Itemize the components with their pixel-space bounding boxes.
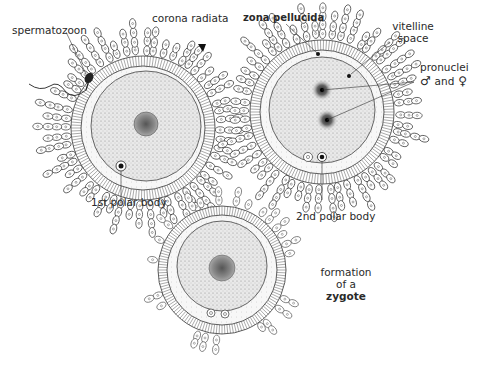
label-vitelline: vitelline xyxy=(388,20,438,32)
male-symbol: ♂ xyxy=(420,74,431,88)
polar-body-chromatin xyxy=(119,164,124,169)
polar-body-1 xyxy=(207,309,215,317)
oocyte-nucleus xyxy=(134,112,158,136)
first-polar-body xyxy=(304,153,313,162)
label-spermatozoon: spermatozoon xyxy=(12,24,87,36)
label-formation-of-zygote: formation of a zygote xyxy=(316,266,376,302)
label-first-polar-body: 1st polar body xyxy=(91,196,167,208)
label-zona-pellucida: zona pellucida xyxy=(243,12,324,24)
label-and: and xyxy=(435,75,455,87)
label-formation: formation xyxy=(316,266,376,278)
label-space: space xyxy=(388,32,438,44)
label-corona-radiata: corona radiata xyxy=(152,12,228,24)
zygote-nucleus xyxy=(209,255,235,281)
label-of-a: of a xyxy=(316,278,376,290)
label-vitelline-space: vitelline space xyxy=(388,20,438,44)
ooplasm xyxy=(269,57,375,163)
polar-body-chromatin xyxy=(320,155,325,160)
label-pronuclei-sexes: ♂ and ♀ xyxy=(420,75,467,87)
cell-3-zygote xyxy=(143,187,301,355)
female-symbol: ♀ xyxy=(458,74,467,88)
polar-body-2 xyxy=(221,310,229,318)
label-zygote: zygote xyxy=(316,290,376,302)
fertilization-diagram xyxy=(0,0,480,366)
label-second-polar-body: 2nd polar body xyxy=(296,210,375,222)
label-pronuclei: pronuclei xyxy=(420,61,469,73)
vitelline-marker-dot xyxy=(347,74,351,78)
